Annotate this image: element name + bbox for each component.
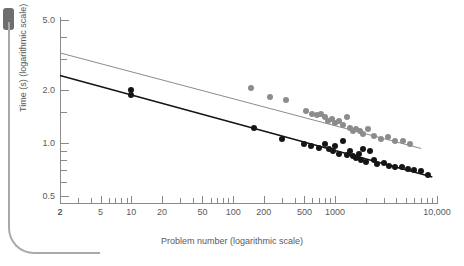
- y-axis-title: Time (s) (logarithmic scale): [18, 4, 28, 112]
- x-tick-minor: [396, 198, 397, 204]
- x-tick: [60, 196, 61, 204]
- data-point: [405, 166, 411, 172]
- data-point: [385, 134, 391, 140]
- x-tick-minor: [366, 198, 367, 204]
- fit-lines: [60, 17, 437, 204]
- data-point: [418, 168, 424, 174]
- data-point: [392, 164, 398, 170]
- data-point: [378, 136, 384, 142]
- y-tick-label: 5.0: [42, 15, 55, 24]
- data-point: [336, 151, 342, 157]
- x-tick-minor: [223, 198, 224, 204]
- data-point: [363, 159, 369, 165]
- x-tick: [101, 196, 102, 204]
- y-tick-label: 1.0: [42, 138, 55, 147]
- data-point: [303, 108, 309, 114]
- x-axis-title: Problem number (logarithmic scale): [0, 236, 464, 246]
- x-tick: [264, 196, 265, 204]
- x-tick-minor: [91, 198, 92, 204]
- data-point: [128, 92, 134, 98]
- x-tick: [162, 196, 163, 204]
- x-tick-minor: [432, 198, 433, 204]
- y-tick-minor: [60, 170, 67, 171]
- x-tick-minor: [127, 198, 128, 204]
- x-tick: [233, 196, 234, 204]
- x-tick-label: 5: [98, 208, 103, 217]
- data-point: [367, 148, 373, 154]
- x-tick-label: 2: [57, 208, 62, 217]
- x-tick-minor: [325, 198, 326, 204]
- y-tick-minor: [60, 182, 67, 183]
- x-tick-label: 1000: [325, 208, 345, 217]
- data-point: [251, 125, 257, 131]
- data-point: [400, 138, 406, 144]
- x-tick-label: 10,000: [423, 208, 451, 217]
- x-tick-minor: [295, 198, 296, 204]
- y-tick-minor: [60, 59, 67, 60]
- x-tick-label: 500: [297, 208, 312, 217]
- x-tick: [131, 196, 132, 204]
- trend-line: [60, 53, 421, 149]
- data-point: [425, 172, 431, 178]
- x-tick-label: 20: [157, 208, 167, 217]
- x-tick-minor: [109, 198, 110, 204]
- x-tick-minor: [228, 198, 229, 204]
- data-point: [301, 141, 307, 147]
- y-tick-label: 2.0: [42, 86, 55, 95]
- y-tick: [60, 90, 69, 91]
- data-point: [371, 133, 377, 139]
- x-tick: [304, 196, 305, 204]
- data-point: [340, 138, 346, 144]
- x-tick-label: 50: [197, 208, 207, 217]
- x-tick-minor: [282, 198, 283, 204]
- data-point: [344, 114, 350, 120]
- data-point: [360, 146, 366, 152]
- x-tick-minor: [211, 198, 212, 204]
- data-point: [411, 167, 417, 173]
- y-tick: [60, 20, 69, 21]
- x-tick-label: 200: [256, 208, 271, 217]
- y-tick: [60, 196, 69, 197]
- x-tick-minor: [121, 198, 122, 204]
- x-tick: [335, 196, 336, 204]
- x-tick-minor: [319, 198, 320, 204]
- x-tick: [202, 196, 203, 204]
- x-tick-minor: [312, 198, 313, 204]
- x-tick-minor: [384, 198, 385, 204]
- x-tick-minor: [180, 198, 181, 204]
- y-tick-minor: [60, 160, 67, 161]
- data-point: [279, 136, 285, 142]
- x-tick-label: 100: [226, 208, 241, 217]
- data-point: [392, 138, 398, 144]
- x-tick-minor: [115, 198, 116, 204]
- x-tick-minor: [330, 198, 331, 204]
- x-tick-minor: [406, 198, 407, 204]
- y-tick-minor: [60, 151, 67, 152]
- data-point: [365, 126, 371, 132]
- data-point: [283, 97, 289, 103]
- x-tick: [437, 196, 438, 204]
- scatter-plot: 5.02.01.00.5225102050100200500100010,000: [60, 17, 437, 204]
- data-point: [340, 122, 346, 128]
- x-tick-minor: [217, 198, 218, 204]
- x-tick-minor: [414, 198, 415, 204]
- x-tick-minor: [78, 198, 79, 204]
- x-tick-minor: [421, 198, 422, 204]
- x-tick-minor: [427, 198, 428, 204]
- x-tick-label: 10: [126, 208, 136, 217]
- y-tick-label: 0.5: [42, 191, 55, 200]
- x-tick-minor: [193, 198, 194, 204]
- data-point: [267, 94, 273, 100]
- data-point: [316, 145, 322, 151]
- data-point: [407, 141, 413, 147]
- data-point: [332, 143, 338, 149]
- data-point: [308, 143, 314, 149]
- y-tick-minor: [60, 112, 67, 113]
- data-point: [399, 164, 405, 170]
- y-tick: [60, 143, 69, 144]
- y-tick-minor: [60, 37, 67, 38]
- data-point: [374, 161, 380, 167]
- data-point: [248, 85, 254, 91]
